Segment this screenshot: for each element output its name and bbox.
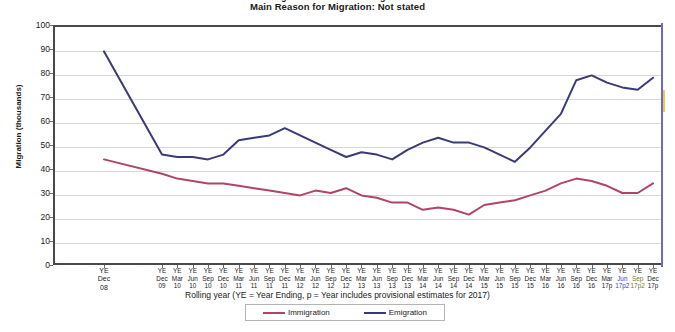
legend-swatch-immigration — [263, 312, 285, 314]
plot-right-edge-marker-secondary — [663, 90, 665, 112]
y-tick-label: 40 — [16, 164, 50, 174]
y-tick-mark — [49, 73, 53, 74]
series-plot — [53, 25, 661, 265]
y-tick-mark — [49, 25, 53, 26]
chart-legend: Immigration Emigration — [245, 304, 445, 321]
y-tick-mark — [49, 145, 53, 146]
x-tick-line3: 17p — [638, 282, 668, 290]
y-tick-mark — [49, 49, 53, 50]
plot-right-edge-marker — [661, 23, 663, 267]
y-tick-label: 30 — [16, 188, 50, 198]
legend-entry-emigration: Emigration — [364, 308, 427, 317]
y-tick-mark — [49, 121, 53, 122]
y-tick-mark — [49, 241, 53, 242]
y-tick-label: 70 — [16, 92, 50, 102]
y-tick-label: 80 — [16, 68, 50, 78]
y-tick-label: 100 — [16, 20, 50, 30]
x-tick-label: YEDec08 — [89, 267, 119, 292]
y-tick-mark — [49, 169, 53, 170]
y-axis-tick-labels: 0102030405060708090100 — [10, 25, 50, 265]
y-tick-mark — [49, 193, 53, 194]
y-tick-label: 0 — [16, 260, 50, 270]
y-tick-mark — [49, 265, 53, 266]
x-tick-line2: Dec — [89, 275, 119, 283]
y-tick-mark — [49, 97, 53, 98]
y-tick-label: 60 — [16, 116, 50, 126]
x-tick-label: YEDec17p — [638, 267, 668, 290]
chart-subtitle: Main Reason for Migration: Not stated — [0, 1, 675, 12]
series-line-immigration — [104, 159, 653, 214]
y-tick-label: 50 — [16, 140, 50, 150]
x-axis-caption: Rolling year (YE = Year Ending, p = Year… — [0, 290, 675, 300]
series-line-emigration — [104, 51, 653, 161]
y-tick-mark — [49, 217, 53, 218]
legend-entry-immigration: Immigration — [263, 308, 330, 317]
x-axis-tick-labels: YEDec08YEDec09YEMar10YEJun10YESep10YEDec… — [53, 265, 661, 293]
y-tick-label: 10 — [16, 236, 50, 246]
x-tick-line2: Dec — [638, 275, 668, 283]
legend-label-emigration: Emigration — [389, 308, 427, 317]
legend-swatch-emigration — [364, 312, 386, 314]
x-tick-line1: YE — [638, 267, 668, 275]
y-tick-label: 90 — [16, 44, 50, 54]
y-tick-label: 20 — [16, 212, 50, 222]
legend-label-immigration: Immigration — [288, 308, 330, 317]
x-tick-line1: YE — [89, 267, 119, 275]
